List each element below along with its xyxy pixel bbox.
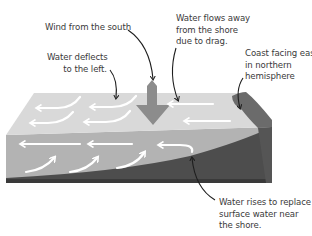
label-rises: Water rises to replace surface water nea… (219, 197, 311, 232)
label-line: from the shore (176, 25, 250, 37)
label-line: Wind from the south (45, 22, 131, 34)
label-line: Water flows away (176, 13, 250, 25)
label-line: Water deflects (47, 52, 107, 64)
label-line: to the left. (47, 64, 107, 76)
label-deflect: Water deflects to the left. (47, 52, 107, 75)
seabed-strip (6, 179, 272, 183)
leader-wind (128, 30, 153, 79)
label-line: Coast facing east (245, 48, 312, 60)
label-line: due to drag. (176, 36, 250, 48)
label-line: Water rises to replace (219, 197, 311, 209)
label-line: surface water near (219, 209, 311, 221)
label-coast: Coast facing east in northern hemisphere (245, 48, 312, 83)
label-wind: Wind from the south (45, 22, 131, 34)
label-line: in northern (245, 60, 312, 72)
label-line: hemisphere (245, 71, 312, 83)
label-line: the shore. (219, 220, 311, 232)
label-flows-away: Water flows away from the shore due to d… (176, 13, 250, 48)
leader-flows-away (172, 48, 178, 100)
